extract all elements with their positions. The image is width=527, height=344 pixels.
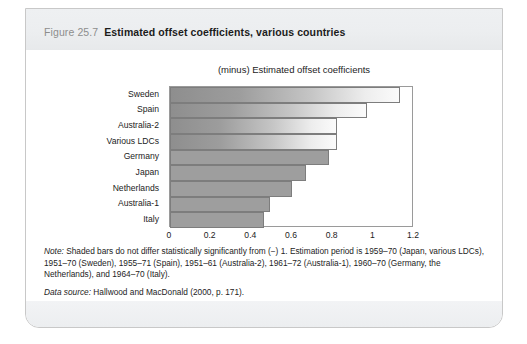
category-label-italy: Italy — [143, 214, 159, 224]
x-tick-0-2: 0.2 — [204, 230, 216, 240]
bar-row — [170, 197, 412, 213]
bar-australia-1[interactable] — [170, 197, 270, 213]
bar-row — [170, 103, 412, 119]
bar-row — [170, 150, 412, 166]
plot-frame — [169, 86, 413, 227]
x-tick-0-4: 0.4 — [244, 230, 256, 240]
note-paragraph: Note: Shaded bars do not differ statisti… — [44, 246, 488, 281]
bar-various-ldcs[interactable] — [170, 134, 337, 150]
figure-notes: Note: Shaded bars do not differ statisti… — [44, 246, 488, 298]
bar-row — [170, 212, 412, 228]
figure-caption: Estimated offset coefficients, various c… — [104, 26, 345, 38]
bar-australia-2[interactable] — [170, 118, 337, 134]
category-label-spain: Spain — [137, 104, 159, 114]
figure-number: Figure 25.7 — [44, 26, 98, 38]
x-tick-1: 1 — [370, 230, 375, 240]
bar-netherlands[interactable] — [170, 181, 292, 197]
bar-row — [170, 118, 412, 134]
x-tick-0: 0 — [167, 230, 172, 240]
category-label-various-ldcs: Various LDCs — [107, 136, 159, 146]
figure-header-text: Figure 25.7Estimated offset coefficients… — [44, 22, 345, 40]
bar-row — [170, 181, 412, 197]
data-source-paragraph: Data source: Hallwood and MacDonald (200… — [44, 287, 488, 299]
bar-germany[interactable] — [170, 150, 329, 166]
data-source-text: Hallwood and MacDonald (2000, p. 171). — [91, 287, 244, 297]
figure-header-band: Figure 25.7Estimated offset coefficients… — [26, 9, 502, 50]
note-text: Shaded bars do not differ statistically … — [44, 246, 484, 279]
x-axis-tick-labels: 00.20.40.60.811.2 — [169, 230, 413, 244]
category-axis-labels: SwedenSpainAustralia-2Various LDCsGerman… — [26, 86, 165, 227]
note-label: Note: — [44, 246, 64, 256]
bar-spain[interactable] — [170, 103, 367, 119]
chart-title: (minus) Estimated offset coefficients — [26, 64, 503, 75]
x-tick-0-6: 0.6 — [285, 230, 297, 240]
figure-card: Figure 25.7Estimated offset coefficients… — [25, 8, 503, 328]
x-tick-0-8: 0.8 — [326, 230, 338, 240]
category-label-sweden: Sweden — [128, 89, 159, 99]
bar-row — [170, 165, 412, 181]
bar-sweden[interactable] — [170, 87, 400, 103]
category-label-germany: Germany — [124, 151, 159, 161]
category-label-japan: Japan — [136, 167, 159, 177]
bar-italy[interactable] — [170, 212, 264, 228]
category-label-australia-2: Australia-2 — [118, 120, 159, 130]
category-label-netherlands: Netherlands — [113, 183, 159, 193]
figure-footer-band — [26, 301, 502, 327]
chart-area: (minus) Estimated offset coefficients Sw… — [26, 50, 503, 240]
bar-row — [170, 87, 412, 103]
bar-row — [170, 134, 412, 150]
x-tick-1-2: 1.2 — [407, 230, 419, 240]
bar-japan[interactable] — [170, 165, 306, 181]
data-source-label: Data source: — [44, 287, 91, 297]
category-label-australia-1: Australia-1 — [118, 198, 159, 208]
